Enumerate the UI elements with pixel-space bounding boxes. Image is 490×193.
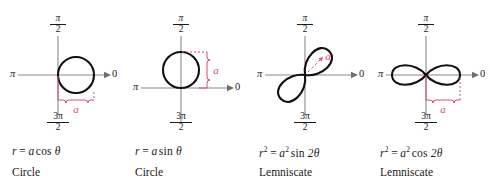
panel-lemniscate-sin: a π 2 3π 2 π 0 r2=a2sin 2θ Lemniscate bbox=[247, 0, 369, 193]
axis-label-3pi-over-2: 3π 2 bbox=[294, 112, 316, 133]
panel-lemniscate-cos: a π 2 3π 2 π 0 r2=a2cos 2θ Lemniscate bbox=[368, 0, 490, 193]
axis-arrow-icon bbox=[104, 72, 111, 78]
curve-name-circle-sin: Circle bbox=[135, 166, 163, 178]
equation-circle-sin: r=asin θ bbox=[135, 145, 182, 157]
axis-label-3pi-over-2: 3π 2 bbox=[47, 112, 69, 133]
equation-lemniscate-cos: r2=a2cos 2θ bbox=[380, 145, 443, 159]
dimension-label-a: a bbox=[440, 103, 446, 115]
axis-label-pi-over-2: π 2 bbox=[173, 14, 189, 35]
axis-arrow-icon bbox=[351, 72, 358, 78]
curve-name-circle-cos: Circle bbox=[12, 166, 40, 178]
axis-arrow-icon bbox=[472, 72, 479, 78]
axis-label-zero: 0 bbox=[235, 81, 240, 92]
curve-name-lemniscate-sin: Lemniscate bbox=[259, 166, 312, 178]
axis-label-pi: π bbox=[257, 68, 262, 79]
panel-circle-cos: a π 2 3π 2 π 0 r=acos θ Circle bbox=[0, 0, 122, 193]
axis-label-pi: π bbox=[378, 68, 383, 79]
axis-label-3pi-over-2: 3π 2 bbox=[170, 112, 192, 133]
axis-label-zero: 0 bbox=[112, 68, 117, 79]
axis-label-pi-over-2: π 2 bbox=[418, 14, 434, 35]
equation-circle-cos: r=acos θ bbox=[12, 145, 61, 157]
axis-label-pi: π bbox=[133, 81, 138, 92]
dimension-label-a: a bbox=[213, 64, 219, 76]
dimension-radius bbox=[308, 58, 322, 72]
axis-label-pi-over-2: π 2 bbox=[297, 14, 313, 35]
axis-label-3pi-over-2: 3π 2 bbox=[415, 112, 437, 133]
dimension-brace bbox=[182, 52, 210, 88]
curve-name-lemniscate-cos: Lemniscate bbox=[380, 166, 433, 178]
panel-circle-sin: a π 2 3π 2 π 0 r=asin θ Circle bbox=[123, 0, 245, 193]
axis-label-zero: 0 bbox=[480, 68, 485, 79]
equation-lemniscate-sin: r2=a2sin 2θ bbox=[259, 145, 320, 159]
axis-label-pi-over-2: π 2 bbox=[50, 14, 66, 35]
polar-graphs-figure: a π 2 3π 2 π 0 r=acos θ Circle bbox=[0, 0, 490, 193]
axis-label-pi: π bbox=[10, 68, 15, 79]
dimension-brace bbox=[58, 76, 94, 103]
axis-arrow-icon bbox=[227, 85, 234, 91]
dimension-label-a: a bbox=[73, 103, 79, 115]
axis-label-zero: 0 bbox=[359, 68, 364, 79]
dimension-label-a: a bbox=[325, 50, 331, 62]
